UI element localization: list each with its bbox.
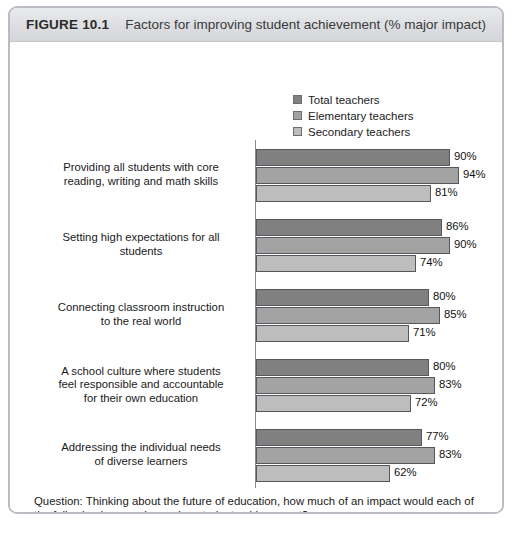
bar-value-label: 81% xyxy=(431,186,458,198)
bar-set: 80%83%72% xyxy=(256,359,502,413)
bar[interactable] xyxy=(256,447,435,464)
legend-label: Elementary teachers xyxy=(308,110,413,122)
category-label: A school culture where studentsfeel resp… xyxy=(34,350,248,420)
bar-set: 90%94%81% xyxy=(256,149,502,203)
bar[interactable] xyxy=(256,255,416,272)
bar-row: 71% xyxy=(256,325,502,342)
figure-title: Factors for improving student achievemen… xyxy=(125,17,486,32)
bar[interactable] xyxy=(256,289,429,306)
bar[interactable] xyxy=(256,429,422,446)
figure-header: FIGURE 10.1 Factors for improving studen… xyxy=(10,8,502,42)
legend-item[interactable]: Total teachers xyxy=(293,92,413,107)
bar[interactable] xyxy=(256,307,440,324)
bar[interactable] xyxy=(256,149,450,166)
bar[interactable] xyxy=(256,325,409,342)
legend-label: Total teachers xyxy=(308,94,380,106)
figure-body: Total teachersElementary teachersSeconda… xyxy=(10,42,502,514)
legend-swatch-icon xyxy=(293,111,302,120)
bar-value-label: 86% xyxy=(442,220,469,232)
bar[interactable] xyxy=(256,395,411,412)
bar-group: Providing all students with corereading,… xyxy=(10,140,502,210)
bar[interactable] xyxy=(256,377,435,394)
figure-number: FIGURE 10.1 xyxy=(26,17,109,32)
bar-value-label: 74% xyxy=(416,256,443,268)
bar-row: 77% xyxy=(256,429,502,446)
bar-row: 62% xyxy=(256,465,502,482)
bar-value-label: 90% xyxy=(450,150,477,162)
bar-row: 83% xyxy=(256,447,502,464)
bar-group: A school culture where studentsfeel resp… xyxy=(10,350,502,420)
bar-value-label: 80% xyxy=(429,290,456,302)
bar-group: Setting high expectations for allstudent… xyxy=(10,210,502,280)
bar-set: 80%85%71% xyxy=(256,289,502,343)
legend-label: Secondary teachers xyxy=(308,126,410,138)
bar-value-label: 71% xyxy=(409,326,436,338)
bar[interactable] xyxy=(256,167,459,184)
legend-swatch-icon xyxy=(293,95,302,104)
bar-value-label: 80% xyxy=(429,360,456,372)
bar-row: 83% xyxy=(256,377,502,394)
bar-row: 80% xyxy=(256,289,502,306)
bar[interactable] xyxy=(256,219,442,236)
bar-group: Addressing the individual needsof divers… xyxy=(10,420,502,490)
bar-row: 81% xyxy=(256,185,502,202)
bar-row: 74% xyxy=(256,255,502,272)
bar-row: 90% xyxy=(256,237,502,254)
category-label: Setting high expectations for allstudent… xyxy=(34,210,248,280)
bar-row: 72% xyxy=(256,395,502,412)
bar-group: Connecting classroom instructionto the r… xyxy=(10,280,502,350)
bar-row: 94% xyxy=(256,167,502,184)
bar-value-label: 90% xyxy=(450,238,477,250)
legend-item[interactable]: Secondary teachers xyxy=(293,124,413,139)
legend-item[interactable]: Elementary teachers xyxy=(293,108,413,123)
bar-value-label: 83% xyxy=(435,448,462,460)
bar-groups: Providing all students with corereading,… xyxy=(10,140,502,490)
legend-swatch-icon xyxy=(293,127,302,136)
bar[interactable] xyxy=(256,465,390,482)
bar-value-label: 83% xyxy=(435,378,462,390)
bar[interactable] xyxy=(256,359,429,376)
bar-value-label: 94% xyxy=(459,168,486,180)
source-note xyxy=(8,521,504,530)
bar[interactable] xyxy=(256,237,450,254)
category-label: Connecting classroom instructionto the r… xyxy=(34,280,248,350)
bar-value-label: 85% xyxy=(440,308,467,320)
figure-container: FIGURE 10.1 Factors for improving studen… xyxy=(8,6,504,514)
question-text: Question: Thinking about the future of e… xyxy=(34,494,486,514)
bar-row: 90% xyxy=(256,149,502,166)
chart-legend: Total teachersElementary teachersSeconda… xyxy=(293,92,413,140)
bar-row: 86% xyxy=(256,219,502,236)
chart-plot-area: Providing all students with corereading,… xyxy=(10,140,502,490)
figure-footnotes: Question: Thinking about the future of e… xyxy=(34,494,486,514)
bar[interactable] xyxy=(256,185,431,202)
category-label: Providing all students with corereading,… xyxy=(34,140,248,210)
bar-value-label: 77% xyxy=(422,430,449,442)
bar-set: 86%90%74% xyxy=(256,219,502,273)
bar-value-label: 72% xyxy=(411,396,438,408)
bar-set: 77%83%62% xyxy=(256,429,502,483)
bar-row: 80% xyxy=(256,359,502,376)
bar-value-label: 62% xyxy=(390,466,417,478)
category-label: Addressing the individual needsof divers… xyxy=(34,420,248,490)
bar-row: 85% xyxy=(256,307,502,324)
